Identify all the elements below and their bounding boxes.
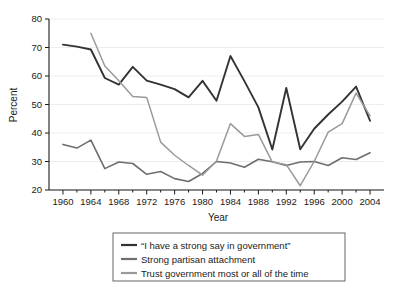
y-tick-label: 80 (31, 13, 42, 24)
x-tick-label: 1984 (220, 196, 241, 207)
y-tick-label: 40 (31, 127, 42, 138)
y-tick-label: 70 (31, 42, 42, 53)
x-tick-label: 2004 (359, 196, 380, 207)
gridlines (49, 19, 384, 190)
x-tick-label: 1980 (192, 196, 213, 207)
x-tick-label: 1968 (108, 196, 129, 207)
x-tick-label: 2000 (332, 196, 353, 207)
y-tick-label: 60 (31, 70, 42, 81)
line-chart: 20304050607080 1960196419681972197619801… (0, 0, 397, 286)
legend-label-2: Strong partisan attachment (141, 254, 255, 265)
chart-container: 20304050607080 1960196419681972197619801… (0, 0, 397, 286)
y-tick-label: 50 (31, 99, 42, 110)
y-tick-label: 20 (31, 184, 42, 195)
x-tick-label: 1960 (52, 196, 73, 207)
x-tick-label: 1996 (304, 196, 325, 207)
legend: “I have a strong say in government”Stron… (113, 233, 345, 281)
legend-label-1: “I have a strong say in government” (141, 240, 290, 251)
x-tick-label: 1964 (80, 196, 101, 207)
x-axis-title: Year (208, 212, 229, 223)
x-tick-label: 1988 (248, 196, 269, 207)
data-series-group (63, 33, 370, 185)
x-tick-label: 1992 (276, 196, 297, 207)
y-axis-title: Percent (8, 88, 19, 123)
x-tick-label: 1972 (136, 196, 157, 207)
series-line-1 (63, 45, 370, 150)
x-axis: 1960196419681972197619801984198819921996… (49, 190, 384, 207)
x-tick-label: 1976 (164, 196, 185, 207)
y-tick-label: 30 (31, 156, 42, 167)
legend-label-3: Trust government most or all of the time (141, 268, 309, 279)
y-axis: 20304050607080 (31, 13, 49, 195)
